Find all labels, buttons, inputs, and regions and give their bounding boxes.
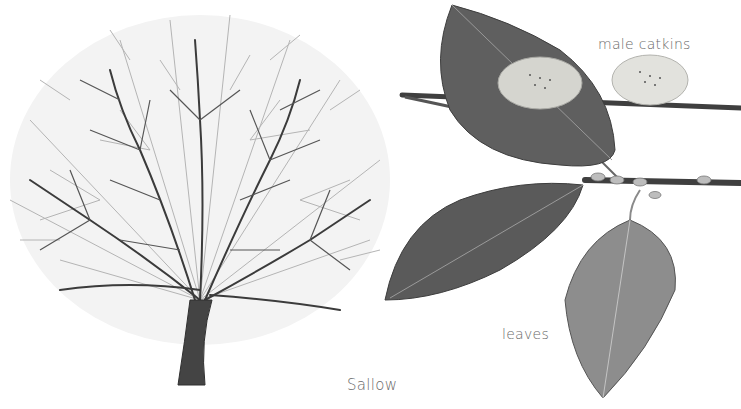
species-title: Sallow (347, 376, 397, 394)
leaf-left (385, 183, 583, 300)
leaf-lower (565, 220, 675, 398)
leaves-label: leaves (502, 326, 549, 342)
illustration-canvas (0, 0, 741, 409)
sallow-tree-illustration (10, 15, 390, 385)
male-catkins-label: male catkins (598, 36, 691, 52)
